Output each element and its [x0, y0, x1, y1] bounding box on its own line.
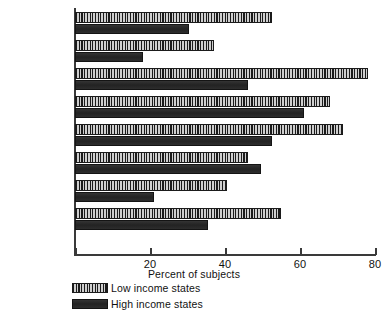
bar-high-income: [75, 164, 261, 175]
bar-high-income: [75, 220, 208, 231]
legend-label: High income states: [111, 298, 203, 310]
chart-row: Protein: [0, 39, 388, 67]
legend-label: Low income states: [111, 282, 201, 294]
bar-low-income: [75, 152, 248, 163]
bar-low-income: [75, 124, 343, 135]
bar-chart: CaloriesProteinCalciumIronVitamin AThiam…: [0, 0, 388, 314]
x-tick: [375, 248, 377, 255]
bar-low-income: [75, 12, 272, 23]
x-tick: [300, 248, 302, 255]
chart-row: Calories: [0, 11, 388, 39]
chart-row: Riboflavin: [0, 179, 388, 207]
chart-legend: Low income statesHigh income states: [72, 281, 203, 313]
chart-row: Thiamin: [0, 151, 388, 179]
bar-high-income: [75, 108, 304, 119]
bar-high-income: [75, 52, 143, 63]
bar-low-income: [75, 40, 214, 51]
chart-row: Calcium: [0, 67, 388, 95]
bar-high-income: [75, 80, 248, 91]
bar-low-income: [75, 68, 368, 79]
legend-swatch-low-income: [72, 283, 108, 293]
legend-item: Low income states: [72, 281, 203, 295]
chart-row: Vitamin A: [0, 123, 388, 151]
bar-high-income: [75, 136, 272, 147]
x-tick: [150, 248, 152, 255]
chart-row: Ascorbic acid: [0, 207, 388, 235]
bar-low-income: [75, 180, 227, 191]
x-axis-title: Percent of subjects: [0, 268, 388, 280]
bar-low-income: [75, 96, 330, 107]
bar-high-income: [75, 192, 154, 203]
legend-item: High income states: [72, 297, 203, 311]
legend-swatch-high-income: [72, 299, 108, 309]
x-tick: [225, 248, 227, 255]
bar-high-income: [75, 24, 189, 35]
x-tick: [75, 248, 77, 255]
bar-low-income: [75, 208, 281, 219]
chart-row: Iron: [0, 95, 388, 123]
